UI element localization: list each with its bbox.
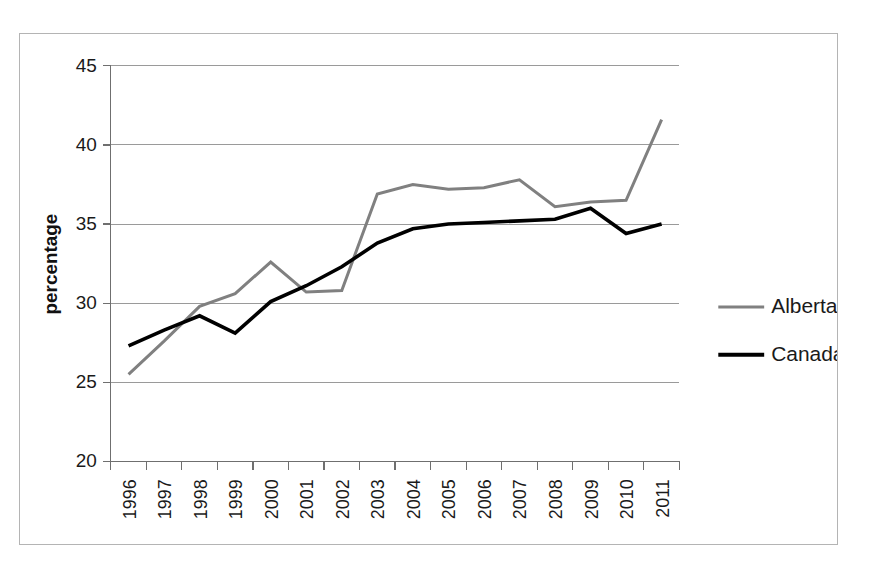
line-chart: 202530354045 199619971998199920002001200… — [20, 34, 837, 544]
x-tick-label: 2004 — [404, 479, 424, 519]
y-tick-label: 40 — [76, 134, 97, 155]
y-tick-label: 35 — [76, 213, 97, 234]
x-tick-label: 1999 — [226, 479, 246, 519]
chart-legend: AlbertaCanada — [718, 294, 837, 365]
x-tick-label: 1996 — [120, 479, 140, 519]
y-tick-label: 20 — [76, 450, 97, 471]
x-tick-label: 2006 — [475, 479, 495, 519]
x-tick-label: 2000 — [262, 479, 282, 519]
x-tick-label: 1998 — [191, 479, 211, 519]
y-tick-label: 45 — [76, 55, 97, 76]
legend-label-canada: Canada — [771, 342, 837, 365]
x-tick-label: 2001 — [297, 479, 317, 519]
y-tick-label: 30 — [76, 292, 97, 313]
chart-figure: 202530354045 199619971998199920002001200… — [19, 33, 838, 545]
x-tick-label: 2005 — [439, 479, 459, 519]
y-tick-group: 202530354045 — [76, 55, 111, 471]
x-tick-label: 2008 — [546, 479, 566, 519]
x-tick-label: 2003 — [368, 479, 388, 519]
x-tick-label: 2011 — [653, 479, 673, 518]
x-tick-label: 2007 — [510, 479, 530, 519]
y-tick-label: 25 — [76, 371, 97, 392]
x-tick-group: 1996199719981999200020012002200320042005… — [111, 461, 680, 519]
y-axis-title: percentage — [40, 214, 61, 315]
x-tick-label: 1997 — [155, 479, 175, 519]
x-tick-label: 2009 — [582, 479, 602, 519]
x-tick-label: 2010 — [617, 479, 637, 519]
legend-label-alberta: Alberta — [771, 294, 837, 317]
x-tick-label: 2002 — [333, 479, 353, 519]
plot-background — [111, 66, 680, 461]
